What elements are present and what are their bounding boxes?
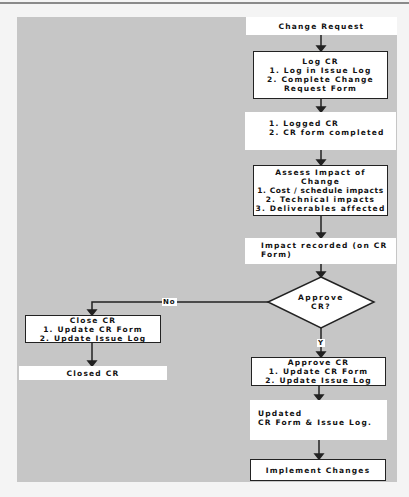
node-text: 1. Update CR Form (26, 325, 160, 334)
node-text: 2. Update Issue Log (252, 376, 385, 385)
node-title: Assess Impact of (254, 168, 387, 177)
node-text: Closed CR (19, 369, 167, 378)
node-text: 2. Complete Change (254, 75, 387, 84)
node-text: 1. Cost / schedule impacts (254, 186, 387, 195)
node-assess-impact: Assess Impact of Change 1. Cost / schedu… (253, 165, 388, 216)
node-text: 1. Update CR Form (252, 367, 385, 376)
node-text: Request Form (254, 84, 387, 93)
node-text: CR? (280, 302, 362, 311)
node-text: 3. Deliverables affected (254, 204, 387, 213)
node-text: Updated (258, 409, 387, 418)
node-change-request: Change Request (246, 17, 397, 35)
node-text: Approve (280, 293, 362, 302)
node-text: 1. Logged CR (269, 119, 396, 128)
node-text: 2. Technical impacts (254, 195, 387, 204)
node-close-cr: Close CR 1. Update CR Form 2. Update Iss… (25, 315, 161, 343)
node-text: Form) (261, 250, 396, 259)
node-title: Log CR (254, 57, 387, 66)
node-text: Change Request (246, 22, 397, 31)
node-text: Implement Changes (251, 466, 385, 475)
node-approve-decision: Approve CR? (280, 293, 362, 311)
edge-label-no: No (162, 298, 177, 306)
node-text: 1. Log in Issue Log (254, 66, 387, 75)
node-logged-cr: 1. Logged CR 2. CR form completed (245, 112, 396, 150)
node-title: Approve CR (252, 358, 385, 367)
node-log-cr: Log CR 1. Log in Issue Log 2. Complete C… (253, 51, 388, 99)
edge-label-yes: Y (317, 339, 325, 347)
node-text: CR Form & Issue Log. (258, 418, 387, 427)
node-title: Change (254, 177, 387, 186)
node-text: 2. CR form completed (269, 128, 396, 137)
node-approve-cr: Approve CR 1. Update CR Form 2. Update I… (251, 357, 386, 386)
node-updated: Updated CR Form & Issue Log. (250, 400, 387, 440)
node-closed-cr: Closed CR (19, 366, 167, 380)
node-text: 2. Update Issue Log (26, 334, 160, 343)
node-implement-changes: Implement Changes (250, 459, 386, 481)
node-impact-recorded: Impact recorded (on CR Form) (245, 238, 396, 264)
node-text: Impact recorded (on CR (261, 241, 396, 250)
node-title: Close CR (26, 316, 160, 325)
edge-decision-no-to-close-cr (92, 302, 268, 311)
